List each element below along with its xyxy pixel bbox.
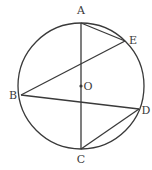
label-d: D <box>142 104 151 117</box>
circle-diagram: A E B D C O <box>0 0 152 170</box>
segment-ae <box>81 23 125 41</box>
segment-cd <box>81 109 139 149</box>
label-b: B <box>9 89 17 102</box>
label-e: E <box>129 34 137 47</box>
label-c: C <box>77 153 85 166</box>
segment-bd <box>21 95 139 109</box>
segment-be <box>21 41 125 95</box>
label-a: A <box>76 4 86 17</box>
center-point-o <box>79 84 82 87</box>
label-o: O <box>83 80 92 93</box>
